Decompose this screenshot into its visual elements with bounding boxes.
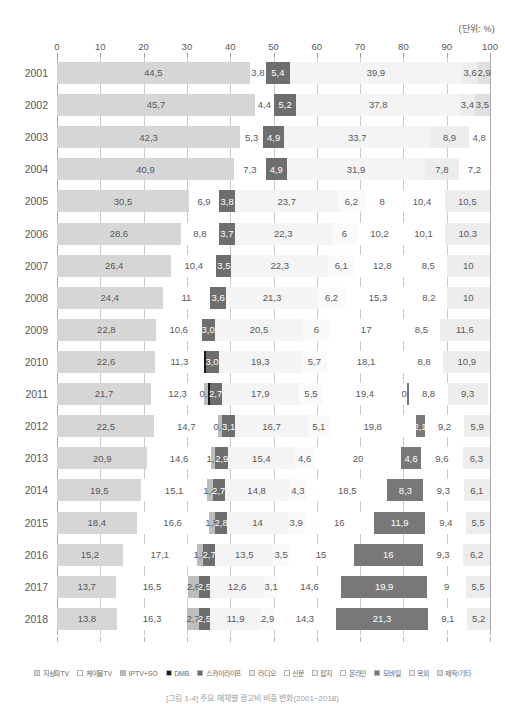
bar-segment[interactable]: 1,5 xyxy=(197,544,203,566)
legend-item[interactable]: 지상파TV xyxy=(34,668,69,678)
bar-segment[interactable]: 3,7 xyxy=(219,223,235,245)
bar-segment[interactable]: 5,2 xyxy=(467,608,490,630)
legend-item[interactable]: 신문 xyxy=(284,668,304,678)
bar-segment[interactable]: 5,2 xyxy=(274,94,297,116)
bar-segment[interactable]: 15 xyxy=(289,544,354,566)
bar-segment[interactable]: 2,5 xyxy=(199,608,210,630)
bar-segment[interactable]: 10,4 xyxy=(171,255,216,277)
bar-segment[interactable]: 6 xyxy=(332,223,358,245)
bar-segment[interactable]: 8,2 xyxy=(411,287,447,309)
bar-segment[interactable]: 6 xyxy=(303,319,329,341)
bar-segment[interactable]: 22,5 xyxy=(57,415,154,437)
bar-segment[interactable]: 2,1 xyxy=(416,415,425,437)
legend-item[interactable]: 라디오 xyxy=(249,668,275,678)
bar-segment[interactable]: 39,9 xyxy=(290,62,463,84)
bar-segment[interactable]: 19,5 xyxy=(57,479,141,501)
bar-segment[interactable]: 2,9 xyxy=(261,608,274,630)
bar-segment[interactable]: 8,3 xyxy=(387,479,423,501)
bar-segment[interactable]: 2,5 xyxy=(199,576,210,598)
legend-item[interactable]: 제작/기타 xyxy=(437,668,471,678)
bar-segment[interactable]: 18,4 xyxy=(57,512,137,534)
bar-segment[interactable]: 22,3 xyxy=(235,223,332,245)
bar-segment[interactable]: 11,6 xyxy=(440,319,490,341)
bar-segment[interactable]: 10 xyxy=(447,287,490,309)
bar-segment[interactable]: 37,8 xyxy=(296,94,460,116)
bar-segment[interactable]: 8,5 xyxy=(410,255,447,277)
bar-segment[interactable]: 9,3 xyxy=(423,479,463,501)
bar-segment[interactable]: 10,1 xyxy=(402,223,446,245)
bar-segment[interactable]: 16,7 xyxy=(235,415,307,437)
bar-segment[interactable]: 10,2 xyxy=(358,223,402,245)
bar-segment[interactable]: 15,2 xyxy=(57,544,123,566)
bar-segment[interactable]: 6,9 xyxy=(189,190,219,212)
bar-segment[interactable]: 9,1 xyxy=(428,608,467,630)
bar-segment[interactable]: 4,9 xyxy=(263,126,284,148)
bar-segment[interactable]: 42,3 xyxy=(57,126,240,148)
bar-segment[interactable]: 8,8 xyxy=(181,223,219,245)
bar-segment[interactable]: 2,7 xyxy=(210,383,222,405)
bar-segment[interactable]: 6,2 xyxy=(338,190,365,212)
bar-segment[interactable]: 31,9 xyxy=(287,158,425,180)
bar-segment[interactable]: 12,8 xyxy=(354,255,409,277)
bar-segment[interactable]: 19,3 xyxy=(219,351,303,373)
bar-segment[interactable]: 3,5 xyxy=(216,255,231,277)
legend-item[interactable]: 온라인 xyxy=(340,668,366,678)
legend-item[interactable]: DMB xyxy=(166,670,190,677)
bar-segment[interactable]: 10,6 xyxy=(156,319,202,341)
bar-segment[interactable]: 8,9 xyxy=(430,126,469,148)
bar-segment[interactable]: 4,9 xyxy=(266,158,287,180)
bar-segment[interactable]: 9,4 xyxy=(425,512,466,534)
bar-segment[interactable]: 5,5 xyxy=(466,512,490,534)
bar-segment[interactable]: 5,9 xyxy=(464,415,490,437)
bar-segment[interactable]: 3,1 xyxy=(222,415,235,437)
bar-segment[interactable]: 4,6 xyxy=(295,447,315,469)
bar-segment[interactable]: 9,6 xyxy=(421,447,463,469)
bar-segment[interactable]: 7,2 xyxy=(459,158,490,180)
bar-segment[interactable]: 17,1 xyxy=(123,544,197,566)
bar-segment[interactable]: 21,3 xyxy=(336,608,428,630)
bar-segment[interactable]: 28,6 xyxy=(57,223,181,245)
bar-segment[interactable]: 3,8 xyxy=(250,62,266,84)
bar-segment[interactable]: 20,9 xyxy=(57,447,147,469)
bar-segment[interactable]: 6,2 xyxy=(318,287,345,309)
bar-segment[interactable]: 13,8 xyxy=(57,608,117,630)
bar-segment[interactable]: 3,6 xyxy=(210,287,226,309)
bar-segment[interactable]: 19,8 xyxy=(330,415,416,437)
bar-segment[interactable]: 16,6 xyxy=(137,512,209,534)
bar-segment[interactable]: 5,5 xyxy=(299,383,323,405)
bar-segment[interactable]: 17 xyxy=(329,319,403,341)
bar-segment[interactable]: 10,5 xyxy=(445,190,490,212)
bar-segment[interactable]: 2,6 xyxy=(188,576,199,598)
legend-item[interactable]: 모바일 xyxy=(374,668,400,678)
bar-segment[interactable]: 21,3 xyxy=(226,287,318,309)
bar-segment[interactable]: 13,7 xyxy=(57,576,116,598)
bar-segment[interactable]: 11 xyxy=(163,287,211,309)
bar-segment[interactable]: 15,1 xyxy=(141,479,206,501)
bar-segment[interactable]: 14,6 xyxy=(278,576,341,598)
bar-segment[interactable]: 2,9 xyxy=(478,62,491,84)
bar-segment[interactable]: 2,9 xyxy=(215,447,228,469)
bar-segment[interactable]: 3,0 xyxy=(202,319,215,341)
bar-segment[interactable]: 9 xyxy=(427,576,466,598)
bar-segment[interactable]: 6,1 xyxy=(464,479,490,501)
bar-segment[interactable]: 12,3 xyxy=(151,383,204,405)
legend-item[interactable]: 스카이라이프 xyxy=(197,668,241,678)
bar-segment[interactable]: 44,5 xyxy=(57,62,250,84)
bar-segment[interactable]: 4,6 xyxy=(401,447,421,469)
bar-segment[interactable]: 19,9 xyxy=(341,576,427,598)
bar-segment[interactable]: 5,7 xyxy=(302,351,327,373)
bar-segment[interactable]: 10,9 xyxy=(443,351,490,373)
bar-segment[interactable]: 3,9 xyxy=(288,512,305,534)
bar-segment[interactable]: 13,5 xyxy=(215,544,273,566)
bar-segment[interactable]: 40,9 xyxy=(57,158,234,180)
legend-item[interactable]: 잡지 xyxy=(312,668,332,678)
bar-segment[interactable]: 3,1 xyxy=(264,576,277,598)
bar-segment[interactable]: 16 xyxy=(354,544,423,566)
bar-segment[interactable]: 30,5 xyxy=(57,190,189,212)
bar-segment[interactable]: 6,3 xyxy=(463,447,490,469)
bar-segment[interactable]: 2,7 xyxy=(187,608,199,630)
bar-segment[interactable]: 22,6 xyxy=(57,351,155,373)
legend-item[interactable]: IPTV+SO xyxy=(120,670,158,677)
bar-segment[interactable]: 4,4 xyxy=(255,94,274,116)
bar-segment[interactable]: 2,8 xyxy=(215,512,227,534)
